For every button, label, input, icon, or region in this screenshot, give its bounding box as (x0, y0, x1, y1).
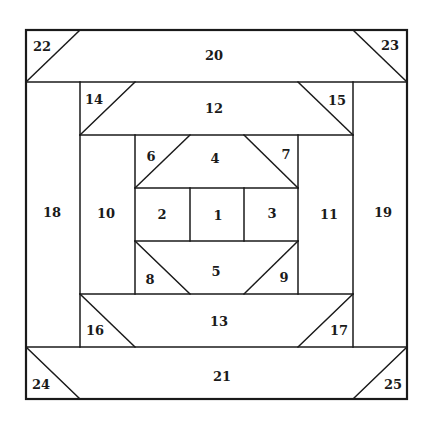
piece-label-15: 15 (328, 93, 346, 108)
piece-label-4: 4 (210, 151, 219, 166)
piece-label-13: 13 (210, 314, 228, 329)
piece-label-5: 5 (211, 264, 220, 279)
piece-label-18: 18 (43, 205, 61, 220)
piece-label-22: 22 (33, 39, 51, 54)
piece-label-2: 2 (157, 207, 166, 222)
quilt-block-diagram: 1234567891011121314151617181920212223242… (0, 0, 434, 421)
piece-label-20: 20 (205, 48, 223, 63)
piece-label-16: 16 (86, 323, 104, 338)
piece-label-12: 12 (205, 101, 223, 116)
piece-label-24: 24 (32, 377, 50, 392)
piece-label-6: 6 (146, 149, 155, 164)
piece-label-14: 14 (85, 92, 103, 107)
piece-label-7: 7 (281, 147, 290, 162)
piece-label-10: 10 (97, 206, 115, 221)
piece-label-1: 1 (213, 208, 222, 223)
piece-label-8: 8 (145, 272, 154, 287)
piece-label-11: 11 (320, 207, 338, 222)
piece-label-3: 3 (267, 206, 276, 221)
piece-label-9: 9 (279, 270, 288, 285)
piece-label-21: 21 (213, 369, 231, 384)
piece-label-25: 25 (384, 377, 402, 392)
piece-label-23: 23 (381, 38, 399, 53)
piece-label-17: 17 (330, 323, 348, 338)
piece-label-19: 19 (374, 205, 392, 220)
